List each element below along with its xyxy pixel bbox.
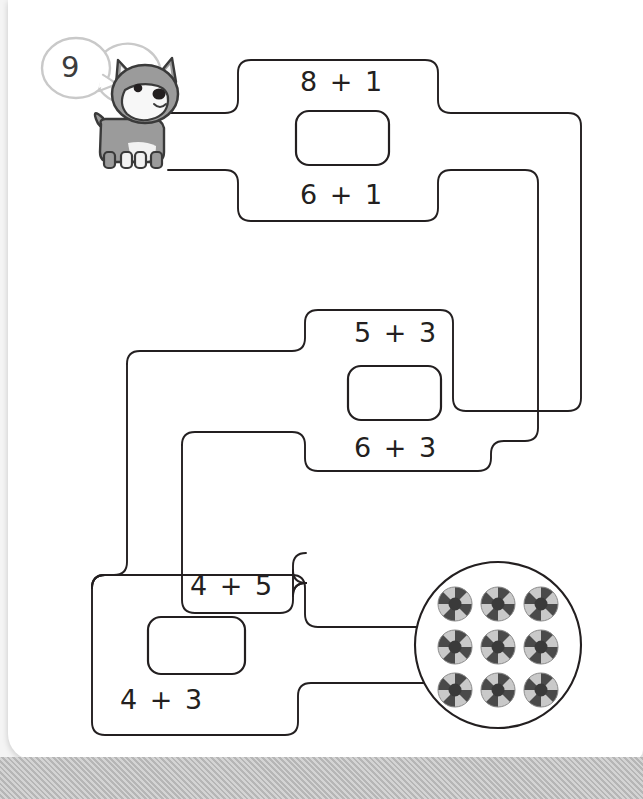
- equation-group-2-bottom: 6 + 3: [354, 432, 438, 463]
- equation-group-1-bottom: 6 + 1: [300, 179, 384, 210]
- equation-group-1-top: 8 + 1: [300, 66, 384, 97]
- target-number-text: 9: [61, 50, 79, 84]
- equation-group-3-bottom: 4 + 3: [120, 684, 204, 715]
- worksheet-page: — —— — — — —— —— — —— —— — —: [0, 0, 643, 799]
- dog-character-layer: [0, 0, 643, 799]
- equation-group-2-top: 5 + 3: [354, 317, 438, 348]
- equation-group-3-top: 4 + 5: [190, 570, 274, 601]
